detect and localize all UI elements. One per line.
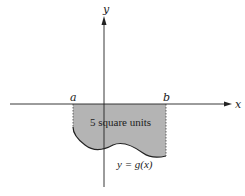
curve-equation-label: y = g(x) <box>116 158 153 171</box>
bound-b-label: b <box>163 91 170 104</box>
y-axis-label: y <box>102 3 110 16</box>
y-axis-arrow-icon <box>102 16 107 25</box>
x-axis-label: x <box>235 98 242 111</box>
shaded-region <box>73 104 166 157</box>
area-below-axis-diagram: y x a b 5 square units y = g(x) <box>0 0 245 196</box>
diagram-canvas: y x a b 5 square units y = g(x) <box>0 0 245 196</box>
bound-a-label: a <box>70 91 77 104</box>
region-area-label: 5 square units <box>90 116 151 128</box>
x-axis-arrow-icon <box>224 102 232 107</box>
